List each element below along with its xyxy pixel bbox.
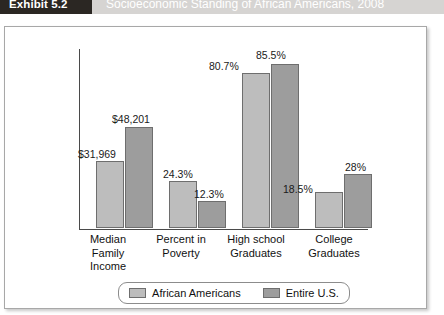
exhibit-number-badge: Exhibit 5.2 (0, 0, 92, 14)
bar-african-americans-percent-in-poverty (169, 181, 197, 228)
bar-value-label: $48,201 (112, 114, 150, 125)
bar-value-label: 80.7% (209, 61, 239, 72)
x-axis-line (79, 229, 368, 230)
bar-value-label: 24.3% (163, 169, 193, 180)
bar-entire-us-college-graduates (344, 174, 372, 228)
bar-entire-us-percent-in-poverty (198, 201, 226, 228)
bar-african-americans-high-school-graduates (242, 73, 270, 228)
bar-group-percent-in-poverty: 24.3% 12.3% (169, 48, 227, 228)
exhibit-title: Socioeconomic Standing of African Americ… (92, 0, 444, 14)
bar-entire-us-median-family-income (125, 127, 153, 228)
bar-group-college-graduates: 18.5% 28% (315, 48, 373, 228)
bar-value-label: 28% (345, 162, 366, 173)
bar-value-label: $31,969 (78, 149, 116, 160)
bar-african-americans-median-family-income (96, 161, 124, 228)
x-axis-category-label: Median Family Income (71, 233, 145, 274)
bar-value-label: 18.5% (283, 184, 313, 195)
legend-item-entire-us: Entire U.S. (263, 287, 339, 299)
bar-african-americans-college-graduates (315, 192, 343, 228)
y-axis-line (79, 49, 80, 230)
bar-value-label: 12.3% (194, 189, 224, 200)
legend-swatch-icon (263, 288, 280, 298)
bar-entire-us-high-school-graduates (271, 64, 299, 228)
exhibit-header: Exhibit 5.2 Socioeconomic Standing of Af… (0, 0, 444, 14)
x-axis-category-label: College Graduates (295, 233, 373, 260)
legend-swatch-icon (129, 288, 146, 298)
bar-value-label: 85.5% (256, 50, 286, 61)
legend-label: Entire U.S. (286, 287, 339, 299)
legend-label: African Americans (152, 287, 241, 299)
x-axis-category-label: Percent in Poverty (144, 233, 218, 260)
plot-area: $31,969 $48,201 24.3% 12.3% 80.7% 85.5% (79, 49, 367, 229)
bar-group-high-school-graduates: 80.7% 85.5% (242, 48, 300, 228)
bar-group-median-family-income: $31,969 $48,201 (96, 48, 154, 228)
chart-frame: $31,969 $48,201 24.3% 12.3% 80.7% 85.5% (4, 26, 427, 309)
exhibit-page: Exhibit 5.2 Socioeconomic Standing of Af… (0, 0, 444, 315)
x-axis-category-label: High school Graduates (214, 233, 298, 260)
legend-item-african-americans: African Americans (129, 287, 241, 299)
chart-legend: African Americans Entire U.S. (118, 282, 350, 304)
